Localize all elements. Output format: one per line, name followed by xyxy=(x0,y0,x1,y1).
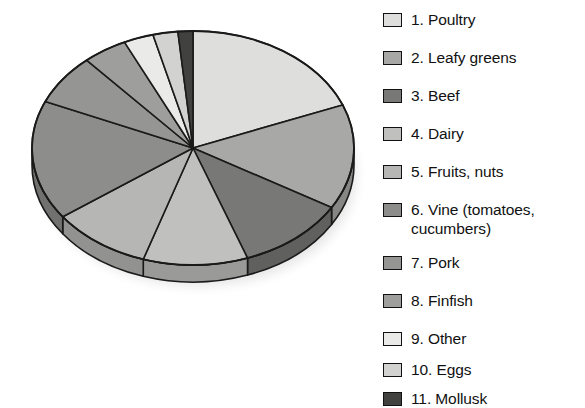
legend-label-8: 8. Finfish xyxy=(411,291,473,310)
legend-item-1[interactable]: 1. Poultry xyxy=(383,10,475,29)
legend-item-11[interactable]: 11. Mollusk xyxy=(383,389,487,408)
legend-swatch-11 xyxy=(383,392,402,406)
legend-swatch-4 xyxy=(383,127,402,141)
legend-swatch-5 xyxy=(383,165,402,179)
legend-swatch-7 xyxy=(383,256,402,270)
pie-top-faces xyxy=(32,31,354,265)
legend-item-7[interactable]: 7. Pork xyxy=(383,253,459,272)
legend-swatch-1 xyxy=(383,13,402,27)
legend-label-11: 11. Mollusk xyxy=(411,389,487,408)
legend-item-10[interactable]: 10. Eggs xyxy=(383,360,471,379)
legend-label-9: 9. Other xyxy=(411,329,466,348)
pie-chart-svg xyxy=(0,0,380,404)
legend-swatch-8 xyxy=(383,294,402,308)
legend-item-3[interactable]: 3. Beef xyxy=(383,86,459,105)
legend-item-5[interactable]: 5. Fruits, nuts xyxy=(383,162,503,181)
legend-item-4[interactable]: 4. Dairy xyxy=(383,124,464,143)
legend-swatch-6 xyxy=(383,203,402,217)
legend-label-7: 7. Pork xyxy=(411,253,459,272)
legend-label-3: 3. Beef xyxy=(411,86,459,105)
legend-label-10: 10. Eggs xyxy=(411,360,471,379)
legend-item-2[interactable]: 2. Leafy greens xyxy=(383,48,516,67)
legend-label-5: 5. Fruits, nuts xyxy=(411,162,503,181)
pie-chart-area xyxy=(0,0,380,404)
legend-item-6[interactable]: 6. Vine (tomatoes, cucumbers) xyxy=(383,200,535,238)
legend-label-4: 4. Dairy xyxy=(411,124,464,143)
chart-legend: 1. Poultry2. Leafy greens3. Beef4. Dairy… xyxy=(381,0,585,404)
legend-label-6: 6. Vine (tomatoes, cucumbers) xyxy=(411,200,535,238)
legend-swatch-2 xyxy=(383,51,402,65)
legend-label-2: 2. Leafy greens xyxy=(411,48,516,67)
legend-item-8[interactable]: 8. Finfish xyxy=(383,291,473,310)
legend-swatch-10 xyxy=(383,363,402,377)
legend-swatch-3 xyxy=(383,89,402,103)
legend-label-1: 1. Poultry xyxy=(411,10,475,29)
legend-swatch-9 xyxy=(383,332,402,346)
legend-item-9[interactable]: 9. Other xyxy=(383,329,466,348)
